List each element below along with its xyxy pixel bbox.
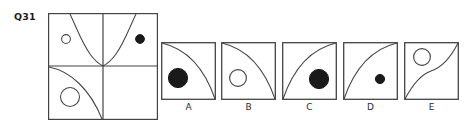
large-filled-dot-icon	[309, 69, 328, 88]
matrix-grid	[48, 13, 158, 120]
option-d-label: D	[343, 102, 398, 112]
option-c[interactable]: C	[282, 42, 337, 100]
option-c-svg	[282, 42, 337, 100]
option-b-label: B	[221, 102, 276, 112]
option-d-box[interactable]	[343, 42, 398, 100]
small-filled-dot-icon	[136, 35, 145, 44]
option-border	[283, 43, 337, 100]
option-d-svg	[343, 42, 398, 100]
option-b[interactable]: B	[221, 42, 276, 100]
matrix-svg	[48, 13, 158, 120]
option-d[interactable]: D	[343, 42, 398, 100]
option-border	[162, 43, 216, 100]
option-a-box[interactable]	[161, 42, 216, 100]
option-border	[222, 43, 276, 100]
answer-options: A B C	[161, 42, 473, 117]
option-a-label: A	[161, 102, 216, 112]
large-filled-dot-icon	[168, 68, 187, 87]
option-a[interactable]: A	[161, 42, 216, 100]
page-title: Q31	[14, 11, 36, 22]
option-e[interactable]: E	[404, 42, 459, 100]
option-b-svg	[221, 42, 276, 100]
option-b-box[interactable]	[221, 42, 276, 100]
option-c-box[interactable]	[282, 42, 337, 100]
option-e-box[interactable]	[404, 42, 459, 100]
option-border	[344, 43, 398, 100]
small-filled-dot-icon	[375, 74, 384, 83]
option-a-svg	[161, 42, 216, 100]
option-e-label: E	[404, 102, 459, 112]
option-c-label: C	[282, 102, 337, 112]
question-panel: Q31	[0, 0, 473, 129]
option-e-svg	[404, 42, 459, 100]
